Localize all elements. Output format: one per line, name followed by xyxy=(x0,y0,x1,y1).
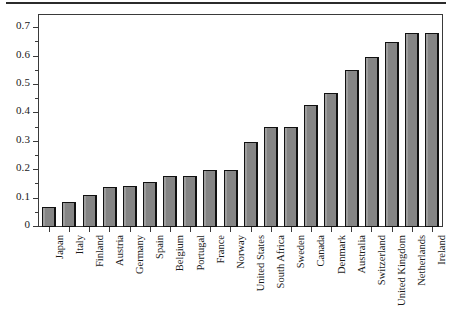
x-axis-category: Sweden xyxy=(281,227,301,313)
x-axis-category: Japan xyxy=(39,227,59,313)
x-axis-category: Australia xyxy=(341,227,361,313)
bar-slot xyxy=(140,15,160,227)
bar-slot xyxy=(341,15,361,227)
y-axis-tick-label: 0.2 xyxy=(16,162,30,173)
y-axis-tick-mark xyxy=(33,56,38,57)
x-axis-category: France xyxy=(200,227,220,313)
x-axis-tick-label-text: Ireland xyxy=(438,235,449,265)
bar-slot xyxy=(39,15,59,227)
y-axis-tick-mark xyxy=(33,112,38,113)
y-axis-tick-label: 0.6 xyxy=(16,49,30,60)
y-axis-minor-tick-mark xyxy=(35,98,38,99)
bar-slot xyxy=(301,15,321,227)
x-axis-category: Canada xyxy=(301,227,321,313)
y-axis-tick-mark xyxy=(33,198,38,199)
y-axis-tick-mark xyxy=(33,84,38,85)
bar-slot xyxy=(160,15,180,227)
x-axis-category: Italy xyxy=(59,227,79,313)
top-rule-divider xyxy=(6,2,446,4)
figure: 00.10.20.30.40.50.60.7 JapanItalyFinland… xyxy=(0,0,452,313)
x-axis-tick-label: United Kingdom xyxy=(392,164,403,235)
y-axis-minor-tick-mark xyxy=(35,70,38,71)
x-axis-category: Denmark xyxy=(321,227,341,313)
y-axis: 00.10.20.30.40.50.60.7 xyxy=(0,14,38,227)
x-axis-category: Spain xyxy=(140,227,160,313)
x-axis-category: United Kingdom xyxy=(382,227,402,313)
y-axis-tick-mark xyxy=(33,27,38,28)
bar-slot xyxy=(79,15,99,227)
bar-slot xyxy=(422,15,442,227)
y-axis-tick-label: 0.3 xyxy=(16,134,30,145)
y-axis-tick-mark xyxy=(33,226,38,227)
x-axis-category: United States xyxy=(241,227,261,313)
x-axis-category: Switzerland xyxy=(361,227,381,313)
x-axis-category: Finland xyxy=(79,227,99,313)
y-axis-minor-tick-mark xyxy=(35,183,38,184)
bar[interactable] xyxy=(425,33,439,227)
y-axis-tick-label: 0.4 xyxy=(16,105,30,116)
y-axis-minor-tick-mark xyxy=(35,155,38,156)
y-axis-minor-tick-mark xyxy=(35,212,38,213)
x-axis: JapanItalyFinlandAustriaGermanySpainBelg… xyxy=(39,227,442,313)
y-axis-tick-label: 0 xyxy=(24,219,30,230)
y-axis-minor-tick-mark xyxy=(35,127,38,128)
x-axis-category: Norway xyxy=(220,227,240,313)
x-axis-category: Germany xyxy=(120,227,140,313)
x-axis-category: Belgium xyxy=(160,227,180,313)
x-axis-category: Netherlands xyxy=(402,227,422,313)
x-axis-category: Portugal xyxy=(180,227,200,313)
x-axis-category: South Africa xyxy=(261,227,281,313)
x-axis-tick-label: Ireland xyxy=(432,205,443,235)
bar-slot xyxy=(99,15,119,227)
bar-slot xyxy=(220,15,240,227)
bar-slot xyxy=(180,15,200,227)
bar-slot xyxy=(59,15,79,227)
bar-slot xyxy=(281,15,301,227)
y-axis-tick-label: 0.5 xyxy=(16,77,30,88)
y-axis-minor-tick-mark xyxy=(35,41,38,42)
x-axis-category: Ireland xyxy=(422,227,442,313)
y-axis-tick-mark xyxy=(33,169,38,170)
x-axis-category: Austria xyxy=(99,227,119,313)
y-axis-tick-label: 0.7 xyxy=(16,20,30,31)
y-axis-tick-label: 0.1 xyxy=(16,191,30,202)
y-axis-tick-mark xyxy=(33,141,38,142)
bar-slot xyxy=(200,15,220,227)
